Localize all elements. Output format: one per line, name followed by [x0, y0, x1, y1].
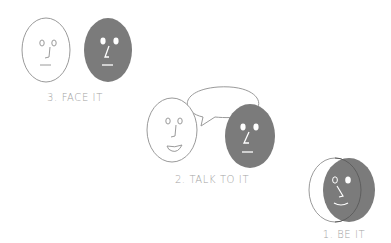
gray-face-icon [225, 104, 275, 168]
white-smiling-face-icon [147, 98, 197, 162]
step-label-talk-to-it: 2. TALK TO IT [175, 174, 249, 185]
gray-face-icon [84, 18, 132, 82]
step-talk-to-it [147, 87, 275, 168]
step-label-be-it: 1. BE IT [323, 229, 366, 240]
step-label-face-it: 3. FACE IT [47, 92, 103, 103]
step-face-it [22, 18, 132, 82]
face-it-talk-it-be-it-diagram [0, 0, 391, 243]
white-face-icon [22, 18, 70, 82]
step-be-it [309, 158, 375, 222]
merged-face-icon [309, 158, 375, 222]
